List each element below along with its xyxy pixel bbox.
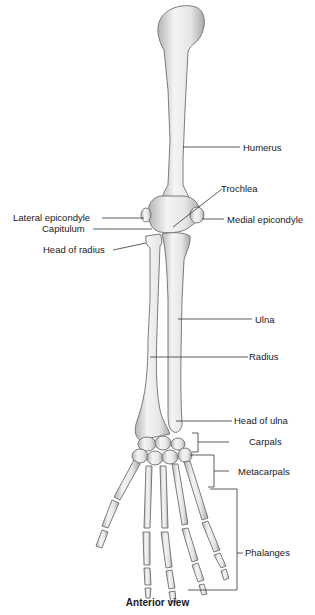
humerus-bone [158,6,204,205]
label-trochlea: Trochlea [221,183,258,194]
label-carpals: Carpals [249,436,282,447]
medial-epicondyle-bone [190,207,204,223]
label-head-of-ulna: Head of ulna [234,415,288,426]
metacarpal-bones [114,460,208,528]
skeleton-illustration [0,0,315,615]
radius-bone [135,234,170,440]
label-capitulum: Capitulum [42,223,85,234]
lateral-epicondyle-bone [141,208,151,222]
ulna-bone [162,233,190,433]
diagram-caption: Anterior view [0,597,315,608]
label-ulna: Ulna [255,314,275,325]
label-head-of-radius: Head of radius [43,244,105,255]
carpal-bones [132,436,192,465]
label-metacarpals: Metacarpals [238,466,290,477]
label-lateral-epicondyle: Lateral epicondyle [13,212,90,223]
label-humerus: Humerus [243,142,282,153]
label-phalanges: Phalanges [245,547,290,558]
label-radius: Radius [249,351,279,362]
label-medial-epicondyle: Medial epicondyle [227,214,303,225]
